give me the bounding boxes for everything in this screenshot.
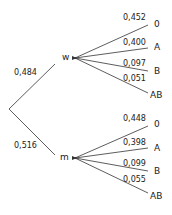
leaf-m-0: 0	[154, 120, 160, 129]
leaf-w-a: A	[154, 43, 160, 52]
prob-m-a: 0,398	[123, 138, 146, 147]
prob-m-b: 0,099	[123, 159, 146, 168]
prob-w-0: 0,452	[123, 13, 146, 22]
leaf-m-b: B	[154, 167, 160, 176]
leaf-m-a: A	[154, 144, 160, 153]
leaf-w-ab: AB	[150, 91, 162, 100]
prob-m-0: 0,448	[123, 114, 146, 123]
tree-lines	[0, 0, 172, 215]
arrow-icon	[72, 156, 77, 160]
arrow-icon	[72, 56, 77, 60]
prob-w: 0,484	[14, 68, 37, 77]
prob-w-ab: 0,051	[123, 74, 146, 83]
prob-m-ab: 0,055	[123, 175, 146, 184]
leaf-w-b: B	[154, 67, 160, 76]
prob-m: 0,516	[14, 141, 37, 150]
leaf-w-0: 0	[154, 20, 160, 29]
leaf-m-ab: AB	[150, 192, 162, 201]
prob-w-b: 0,097	[123, 59, 146, 68]
node-m: m	[60, 153, 69, 162]
prob-w-a: 0,400	[123, 38, 146, 47]
node-w: w	[62, 53, 69, 62]
